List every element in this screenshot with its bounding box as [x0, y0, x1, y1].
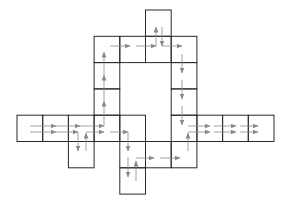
grid-cell — [43, 115, 69, 141]
grid-cell — [120, 115, 146, 141]
grid-cell — [171, 63, 197, 89]
grid-cell — [223, 115, 249, 141]
path-arrows — [30, 27, 258, 181]
grid-cells — [17, 10, 274, 194]
grid-cell — [146, 36, 172, 62]
grid-path-diagram — [0, 0, 289, 205]
grid-cell — [197, 115, 223, 141]
grid-cell — [171, 89, 197, 115]
grid-cell — [94, 115, 120, 141]
grid-cell — [94, 63, 120, 89]
grid-cell — [248, 115, 274, 141]
grid-cell — [94, 36, 120, 62]
grid-cell — [146, 10, 172, 36]
grid-cell — [68, 142, 94, 168]
grid-cell — [146, 142, 172, 168]
grid-cell — [171, 115, 197, 141]
grid-cell — [120, 168, 146, 194]
diagram-canvas — [0, 0, 289, 205]
grid-cell — [94, 89, 120, 115]
grid-cell — [120, 36, 146, 62]
grid-cell — [17, 115, 43, 141]
grid-cell — [68, 115, 94, 141]
grid-cell — [171, 36, 197, 62]
grid-cell — [120, 142, 146, 168]
grid-cell — [171, 142, 197, 168]
